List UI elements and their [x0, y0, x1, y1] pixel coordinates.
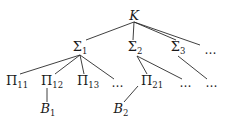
- node-label: …: [206, 76, 219, 90]
- node-subscript: 11: [17, 80, 28, 90]
- node-p12: Π12: [41, 74, 63, 90]
- node-subscript: 2: [123, 108, 128, 118]
- node-label: Σ: [128, 39, 137, 54]
- edge-k-s3: [134, 22, 176, 40]
- node-subscript: 2: [137, 46, 142, 56]
- node-p13: Π13: [77, 74, 99, 90]
- node-s3: Σ3: [171, 40, 186, 56]
- node-s2: Σ2: [128, 40, 143, 56]
- node-label: …: [180, 76, 193, 90]
- node-label: Σ: [171, 39, 180, 54]
- edge-k-s1: [86, 22, 134, 40]
- ellipsis-node: …: [112, 77, 125, 89]
- node-s1: Σ1: [73, 40, 88, 56]
- node-k: K: [129, 9, 139, 22]
- node-p11: Π11: [6, 74, 28, 90]
- edge-s1-p11: [20, 55, 80, 74]
- node-subscript: 12: [52, 80, 63, 90]
- node-label: …: [112, 76, 125, 90]
- node-subscript: 1: [50, 108, 55, 118]
- node-label: B: [41, 101, 51, 116]
- tree-diagram: KΣ1Σ2Σ3…Π11Π12Π13…Π21……B1B2: [0, 0, 230, 125]
- node-label: Π: [141, 73, 152, 88]
- edge-k-d0: [134, 22, 200, 45]
- node-label: Σ: [73, 39, 82, 54]
- node-label: …: [205, 43, 218, 57]
- node-subscript: 21: [152, 80, 163, 90]
- edge-k-s2: [133, 22, 134, 40]
- node-label: Π: [41, 73, 52, 88]
- ellipsis-node: …: [206, 77, 219, 89]
- node-label: Π: [77, 73, 88, 88]
- node-label: K: [129, 8, 139, 23]
- node-b1: B1: [41, 102, 56, 118]
- node-label: B: [114, 101, 124, 116]
- node-b2: B2: [114, 102, 129, 118]
- node-subscript: 13: [88, 80, 99, 90]
- node-label: Π: [6, 73, 17, 88]
- edge-s1-p12: [55, 55, 80, 74]
- node-subscript: 3: [180, 46, 185, 56]
- ellipsis-node: …: [205, 44, 218, 56]
- node-subscript: 1: [82, 46, 87, 56]
- edge-p21-b2: [124, 86, 138, 102]
- ellipsis-node: …: [180, 77, 193, 89]
- node-p21: Π21: [141, 74, 163, 90]
